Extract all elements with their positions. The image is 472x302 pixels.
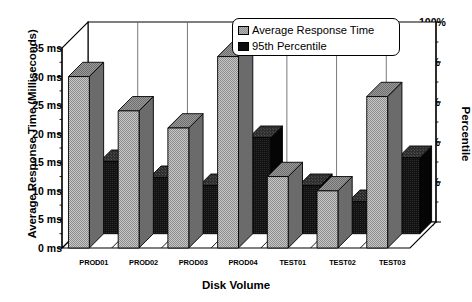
x-axis-tick-label-PROD02: PROD02: [129, 258, 158, 267]
x-axis-tick-label-PROD01: PROD01: [79, 258, 108, 267]
legend-swatch-gray-icon: [238, 26, 249, 35]
x-axis-tick-label-TEST02: TEST02: [329, 258, 356, 267]
bar-average-response-time-TEST03-front: [367, 97, 388, 248]
bar-average-response-time-PROD03-side: [189, 114, 203, 248]
chart-legend: Average Response Time 95th Percentile: [232, 18, 400, 56]
bar-95th-percentile-TEST03-side: [420, 146, 432, 234]
bar-average-response-time-PROD02-front: [118, 111, 139, 248]
bar-average-response-time-PROD01-side: [89, 62, 103, 248]
bar-average-response-time-TEST01-side: [288, 162, 302, 248]
bar-average-response-time-PROD04-front: [218, 57, 239, 248]
x-axis-tick-label-PROD04: PROD04: [229, 258, 258, 267]
bar-average-response-time-TEST03-side: [388, 82, 402, 248]
legend-label-average-response-time: Average Response Time: [252, 24, 374, 37]
bar-average-response-time-TEST01-front: [267, 177, 288, 248]
x-axis-tick-label-TEST01: TEST01: [279, 258, 306, 267]
legend-swatch-black-icon: [238, 42, 249, 51]
bar-average-response-time-PROD04-side: [238, 42, 252, 248]
bar-average-response-time-TEST02-front: [317, 191, 338, 248]
bar-average-response-time-PROD02-side: [139, 97, 153, 248]
x-axis-tick-label-TEST03: TEST03: [379, 258, 406, 267]
legend-label-95th-percentile: 95th Percentile: [252, 40, 327, 53]
x-axis-tick-label-PROD03: PROD03: [179, 258, 208, 267]
legend-item-95th-percentile: 95th Percentile: [238, 38, 394, 54]
legend-item-average-response-time: Average Response Time: [238, 22, 394, 38]
bar-average-response-time-PROD01-front: [68, 77, 89, 248]
chart-container: Average Response Time (Milliseconds) Per…: [0, 0, 472, 302]
bar-average-response-time-PROD03-front: [168, 128, 189, 248]
